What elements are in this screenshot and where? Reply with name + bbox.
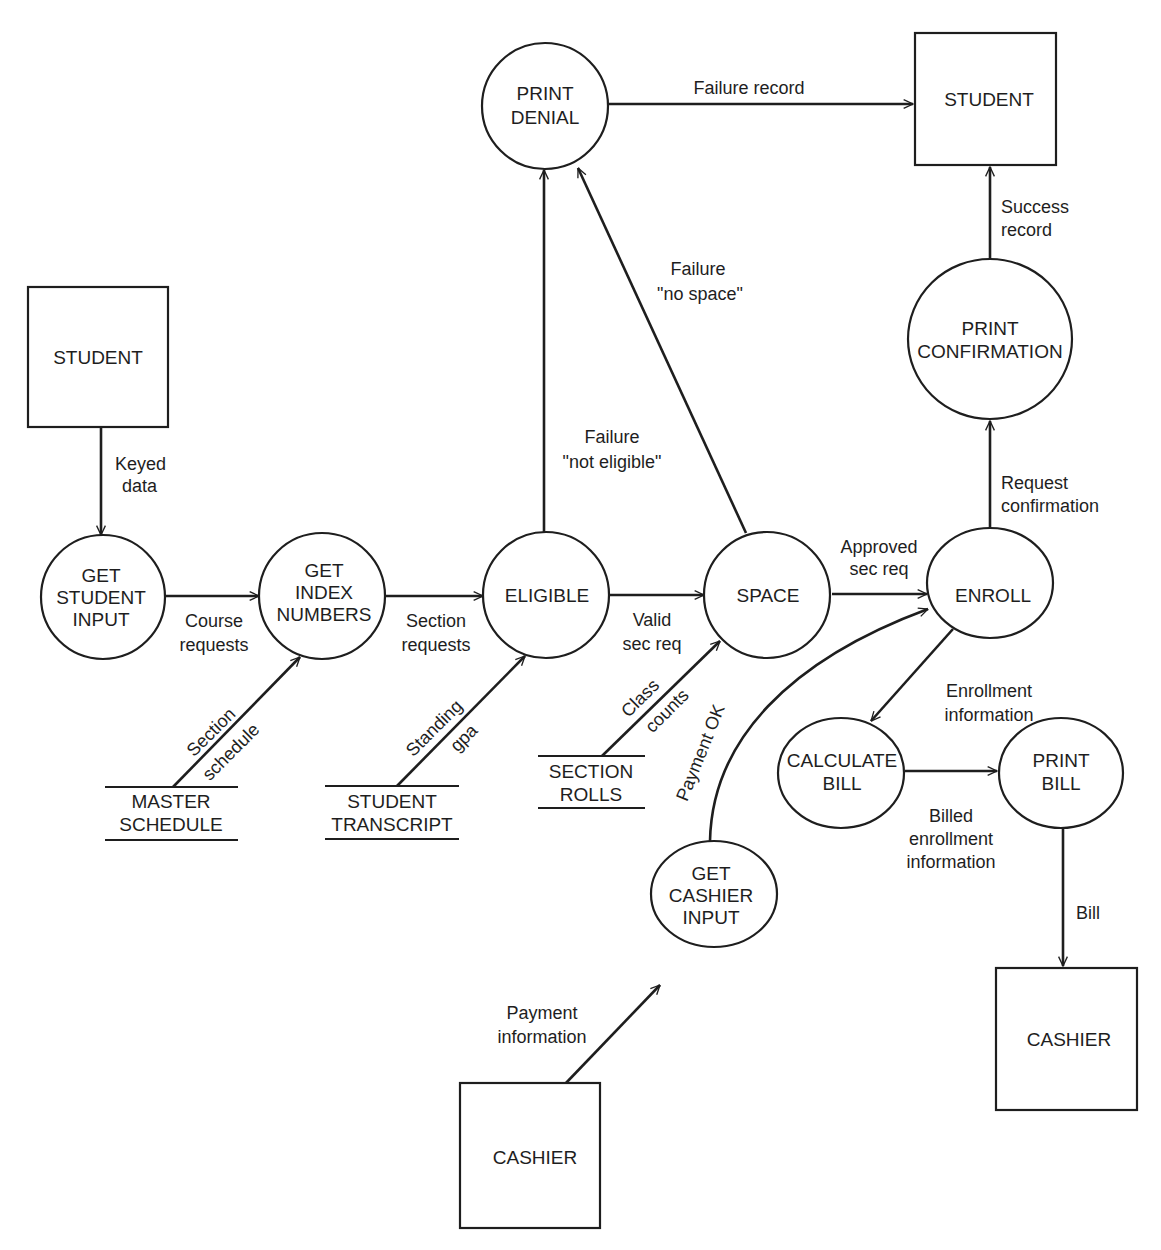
process-enroll: ENROLL — [927, 528, 1053, 638]
store-label-line: ROLLS — [560, 784, 622, 805]
process-label-line: SPACE — [736, 585, 799, 606]
flow-label-line: Valid — [633, 610, 672, 630]
process-label-line: ELIGIBLE — [505, 585, 590, 606]
flow-label-line: Approved — [840, 537, 917, 557]
entity-cashier-right-label: CASHIER — [1027, 1029, 1111, 1050]
process-label-line: STUDENT — [56, 587, 146, 608]
flow-label-line: requests — [179, 635, 248, 655]
flow-label-line: sec req — [622, 634, 681, 654]
process-label-line: BILL — [1041, 773, 1080, 794]
process-label-line: GET — [691, 863, 730, 884]
process-label-line: PRINT — [1033, 750, 1090, 771]
flow-label-line: confirmation — [1001, 496, 1099, 516]
data-flow-diagram: STUDENT STUDENT CASHIER CASHIER GET STUD… — [0, 0, 1161, 1250]
process-label-line: GET — [304, 560, 343, 581]
flow-bill: Bill — [1063, 828, 1100, 966]
flow-label-line: Success — [1001, 197, 1069, 217]
flow-label-line: Failure record — [693, 78, 804, 98]
flow-label-line: gpa — [446, 720, 482, 756]
flow-label-line: Payment OK — [672, 702, 729, 804]
flow-label-line: Enrollment — [946, 681, 1032, 701]
process-print-denial: PRINT DENIAL — [482, 43, 608, 169]
process-label-line: INDEX — [295, 582, 353, 603]
process-label-line: ENROLL — [955, 585, 1031, 606]
entity-cashier-bottom-label: CASHIER — [493, 1147, 577, 1168]
flow-label-line: record — [1001, 220, 1052, 240]
process-label-line: CALCULATE — [787, 750, 898, 771]
process-space: SPACE — [704, 532, 830, 658]
entity-student-left: STUDENT — [28, 287, 168, 427]
process-print-confirmation: PRINT CONFIRMATION — [908, 259, 1072, 419]
flow-label-line: Failure — [670, 259, 725, 279]
flow-label-line: "not eligible" — [563, 452, 662, 472]
flow-label-line: requests — [401, 635, 470, 655]
flow-label-line: Course — [185, 611, 243, 631]
flow-label-line: Failure — [584, 427, 639, 447]
flow-success-record: Success record — [990, 167, 1069, 259]
process-label-line: PRINT — [962, 318, 1019, 339]
store-label-line: STUDENT — [347, 791, 437, 812]
process-get-cashier-input: GET CASHIER INPUT — [651, 841, 777, 947]
process-get-student-input: GET STUDENT INPUT — [41, 535, 165, 659]
process-eligible: ELIGIBLE — [483, 532, 609, 658]
flow-standing-gpa: Standing gpa — [397, 656, 525, 786]
process-label-line: CASHIER — [669, 885, 753, 906]
flow-label-line: "no space" — [657, 284, 743, 304]
flow-payment-information: Payment information — [497, 985, 660, 1083]
flow-request-confirmation: Request confirmation — [990, 421, 1099, 528]
flow-label-line: Section — [406, 611, 466, 631]
process-label-line: PRINT — [517, 83, 574, 104]
store-master-schedule: MASTER SCHEDULE — [105, 787, 238, 840]
process-label-line: BILL — [822, 773, 861, 794]
flow-keyed-data: Keyed data — [101, 427, 166, 535]
flow-payment-ok: Payment OK — [672, 609, 928, 841]
flow-label-line: Billed — [929, 806, 973, 826]
flow-enrollment-information: Enrollment information — [871, 629, 1034, 725]
entity-student-right-label: STUDENT — [944, 89, 1034, 110]
flow-label-line: information — [906, 852, 995, 872]
flow-course-requests: Course requests — [166, 596, 259, 655]
process-label-line: NUMBERS — [276, 604, 371, 625]
store-label-line: SCHEDULE — [119, 814, 222, 835]
flow-label-line: Bill — [1076, 903, 1100, 923]
flow-label-line: Payment — [506, 1003, 577, 1023]
store-label-line: SECTION — [549, 761, 633, 782]
process-label-line: CONFIRMATION — [917, 341, 1062, 362]
flow-label-line: sec req — [849, 559, 908, 579]
store-label-line: TRANSCRIPT — [331, 814, 453, 835]
flow-failure-record: Failure record — [609, 78, 913, 104]
store-section-rolls: SECTION ROLLS — [538, 756, 645, 808]
flow-label-line: data — [122, 476, 158, 496]
process-label-line: INPUT — [73, 609, 130, 630]
store-label-line: MASTER — [131, 791, 210, 812]
process-label-line: DENIAL — [511, 107, 580, 128]
flow-approved-sec-req: Approved sec req — [832, 537, 927, 594]
process-label-line: INPUT — [683, 907, 740, 928]
process-get-index-numbers: GET INDEX NUMBERS — [259, 533, 385, 659]
entity-cashier-bottom: CASHIER — [460, 1083, 600, 1228]
flow-label-line: enrollment — [909, 829, 993, 849]
flow-valid-sec-req: Valid sec req — [609, 595, 704, 654]
process-label-line: GET — [81, 565, 120, 586]
flow-label-line: information — [944, 705, 1033, 725]
process-print-bill: PRINT BILL — [999, 718, 1123, 828]
flow-label-line: Request — [1001, 473, 1068, 493]
entity-student-right: STUDENT — [915, 33, 1056, 165]
flow-failure-no-space: Failure "no space" — [578, 168, 746, 533]
flow-billed-enrollment-information: Billed enrollment information — [905, 771, 997, 872]
entity-cashier-right: CASHIER — [996, 968, 1137, 1110]
flow-label-line: Keyed — [115, 454, 166, 474]
flow-section-schedule: Section schedule — [173, 657, 300, 787]
flow-section-requests: Section requests — [386, 596, 483, 655]
flow-label-line: information — [497, 1027, 586, 1047]
entity-student-left-label: STUDENT — [53, 347, 143, 368]
store-student-transcript: STUDENT TRANSCRIPT — [325, 786, 459, 839]
process-calculate-bill: CALCULATE BILL — [778, 718, 904, 828]
